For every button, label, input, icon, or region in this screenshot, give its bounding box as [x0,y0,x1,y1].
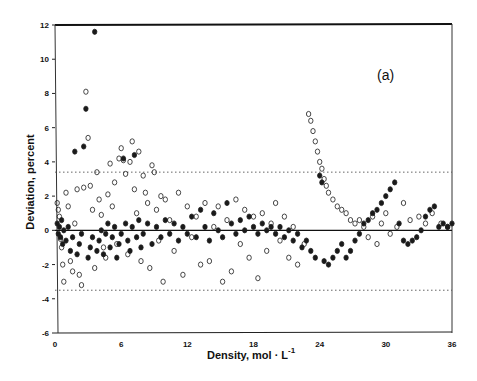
data-point [309,118,313,123]
data-point [278,238,282,243]
data-point [70,269,74,274]
data-point [134,235,138,240]
data-point [234,197,238,202]
data-point [154,207,158,212]
y-tick-label: 8 [45,89,50,98]
data-point [190,235,194,240]
data-point [348,218,352,223]
data-point [326,262,330,267]
x-axis-label-superscript: -1 [288,346,296,355]
data-point [64,190,68,195]
data-point [428,207,432,212]
x-tick-label: 18 [249,340,258,349]
data-point [326,190,330,195]
data-point [62,279,66,284]
x-axis-ticks: 061218243036 [53,340,457,349]
data-point [90,235,94,240]
data-point [247,214,251,219]
data-point [406,241,410,246]
data-point [117,156,121,161]
data-point [313,139,317,144]
x-tick-label: 6 [119,340,124,349]
data-point [410,238,414,243]
data-point [84,106,88,111]
scatter-chart: -6-4-2024681012 061218243036 (a) Deviati… [0,0,477,381]
data-point [101,245,105,250]
data-point [441,221,445,226]
data-point [415,235,419,240]
data-point [366,235,370,240]
data-point [370,211,374,216]
data-point [161,279,165,284]
data-point [260,211,264,216]
data-point [82,144,86,149]
data-point [408,218,412,223]
x-axis-label-text: Density, mol · L [207,349,288,361]
y-tick-label: 0 [45,226,50,235]
data-point [95,248,99,253]
data-point [256,231,260,236]
data-point [66,204,70,209]
data-point [143,190,147,195]
data-point [137,218,141,223]
y-tick-label: 6 [45,124,50,133]
data-point [168,231,172,236]
y-axis-ticks: -6-4-2024681012 [40,21,55,338]
y-tick-label: -6 [42,329,50,338]
data-point [108,161,112,166]
data-point [57,224,61,229]
data-point [97,197,101,202]
data-point [212,211,216,216]
data-point [225,218,229,223]
data-point [139,245,143,250]
data-point [379,221,383,226]
data-point [331,197,335,202]
data-point [88,183,92,188]
data-point [344,255,348,260]
data-point [295,231,299,236]
data-point [70,235,74,240]
data-point [335,204,339,209]
data-point [99,212,103,217]
data-point [220,279,224,284]
data-point [251,224,255,229]
data-point [64,238,68,243]
data-point [375,207,379,212]
data-point [375,241,379,246]
data-point [331,255,335,260]
data-point [130,139,134,144]
data-point [141,231,145,236]
data-point [251,214,255,219]
data-point [388,187,392,192]
y-tick-label: 12 [40,21,49,30]
data-point [73,149,77,154]
data-point [82,185,86,190]
data-point [388,231,392,236]
data-point [181,224,185,229]
data-point [437,224,441,229]
data-point [198,207,202,212]
data-point [99,228,103,233]
data-point [357,231,361,236]
data-point [185,204,189,209]
data-point [401,200,405,205]
data-point [106,221,110,226]
data-point [106,192,110,197]
x-tick-label: 30 [381,340,390,349]
data-point [137,149,141,154]
data-point [88,245,92,250]
data-point [75,187,79,192]
data-point [86,135,90,140]
data-point [450,221,454,226]
data-point [362,221,366,226]
data-point [318,159,322,164]
data-point [58,235,62,240]
data-point [203,224,207,229]
y-tick-label: 4 [45,158,50,167]
data-point [287,228,291,233]
data-point [176,190,180,195]
data-point [397,221,401,226]
data-point [238,241,242,246]
data-point [79,231,83,236]
data-point [130,224,134,229]
